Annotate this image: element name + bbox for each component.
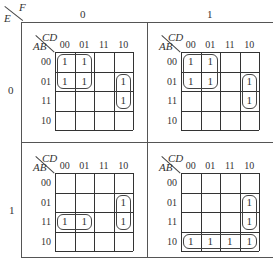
grid-line	[55, 130, 133, 131]
kmap-cell	[220, 173, 240, 193]
inner-row-header: 01	[159, 197, 177, 208]
inner-row-variable-label: AB	[33, 40, 46, 52]
kmap-grid: 1111	[55, 173, 133, 251]
kmap-cell	[201, 193, 221, 213]
grouping-loop	[116, 74, 132, 109]
inner-col-header: 10	[240, 160, 260, 171]
kmap-grid: 111111	[55, 52, 133, 130]
kmap-cell	[94, 212, 114, 232]
kmap-cell	[201, 212, 221, 232]
grid-line	[55, 251, 133, 252]
kmap-cell	[181, 193, 201, 213]
inner-col-header: 11	[220, 39, 240, 50]
kmap-cell	[240, 173, 260, 193]
kmap-cell	[75, 232, 95, 252]
inner-col-header: 01	[201, 39, 221, 50]
kmap-cell	[75, 91, 95, 111]
inner-row-header: 00	[33, 177, 51, 188]
grouping-loop	[242, 195, 258, 230]
kmap-cell	[220, 212, 240, 232]
kmap-cell	[94, 193, 114, 213]
inner-col-header: 11	[94, 39, 114, 50]
kmap-cell	[94, 72, 114, 92]
inner-row-header: 10	[33, 115, 51, 126]
kmap-cell	[55, 193, 75, 213]
outer-frame-bottom	[21, 257, 273, 258]
outer-frame-divider	[147, 22, 148, 257]
inner-row-header: 01	[33, 76, 51, 87]
kmap-cell	[220, 72, 240, 92]
kmap-cell	[75, 173, 95, 193]
grid-line	[133, 173, 134, 251]
inner-row-variable-label: AB	[159, 40, 172, 52]
outer-row-variable-label: E	[4, 12, 11, 24]
outer-col-variable-label: F	[19, 1, 26, 13]
outer-col-header-0: 0	[80, 8, 86, 20]
inner-row-header: 00	[33, 56, 51, 67]
inner-col-header: 01	[75, 39, 95, 50]
kmap-cell	[181, 91, 201, 111]
inner-row-header: 11	[159, 216, 177, 227]
kmap-cell	[55, 173, 75, 193]
inner-row-header: 11	[33, 216, 51, 227]
grouping-loop	[57, 214, 92, 230]
outer-row-header-1: 1	[9, 204, 15, 216]
inner-col-header: 10	[240, 39, 260, 50]
kmap-cell	[240, 111, 260, 131]
inner-row-header: 11	[33, 95, 51, 106]
kmap-cell	[75, 193, 95, 213]
kmap-cell	[94, 52, 114, 72]
inner-row-header: 01	[33, 197, 51, 208]
inner-row-header: 11	[159, 95, 177, 106]
outer-frame-left	[21, 22, 22, 257]
kmap-cell	[201, 91, 221, 111]
kmap-cell	[220, 52, 240, 72]
inner-col-header: 00	[55, 39, 75, 50]
grid-line	[259, 52, 260, 130]
kmap-cell	[114, 111, 134, 131]
inner-row-variable-label: AB	[159, 161, 172, 173]
kmap-cell	[114, 173, 134, 193]
inner-col-header: 10	[114, 160, 134, 171]
kmap-cell	[220, 111, 240, 131]
inner-row-header: 10	[159, 115, 177, 126]
kmap-cell	[114, 52, 134, 72]
outer-col-header-1: 1	[207, 8, 213, 20]
inner-col-header: 00	[181, 39, 201, 50]
outer-row-header-0: 0	[8, 84, 14, 96]
kmap-cell	[201, 111, 221, 131]
kmap-cell	[181, 173, 201, 193]
kmap-grid: 111111	[181, 52, 259, 130]
kmap-cell	[114, 232, 134, 252]
kmap-cell	[55, 91, 75, 111]
grid-line	[133, 52, 134, 130]
kmap-cell	[55, 232, 75, 252]
grouping-loop	[183, 234, 257, 250]
inner-row-header: 10	[159, 236, 177, 247]
inner-col-header: 00	[181, 160, 201, 171]
kmap-cell	[94, 173, 114, 193]
kmap-cell	[94, 91, 114, 111]
inner-col-header: 01	[75, 160, 95, 171]
grouping-loop	[242, 74, 258, 109]
inner-row-header: 00	[159, 177, 177, 188]
kmap-cell	[220, 91, 240, 111]
inner-col-header: 00	[55, 160, 75, 171]
inner-row-header: 00	[159, 56, 177, 67]
kmap-cell	[94, 111, 114, 131]
inner-col-header: 11	[220, 160, 240, 171]
inner-col-header: 11	[94, 160, 114, 171]
kmap-cell	[55, 111, 75, 131]
grouping-loop	[57, 54, 92, 89]
kmap-cell	[240, 52, 260, 72]
inner-row-header: 01	[159, 76, 177, 87]
kmap-cell	[181, 111, 201, 131]
kmap-cell	[181, 212, 201, 232]
kmap-cell	[75, 111, 95, 131]
inner-row-header: 10	[33, 236, 51, 247]
grouping-loop	[183, 54, 218, 89]
grouping-loop	[116, 195, 132, 230]
kmap-cell	[201, 173, 221, 193]
kmap-cell	[220, 193, 240, 213]
grid-line	[181, 130, 259, 131]
